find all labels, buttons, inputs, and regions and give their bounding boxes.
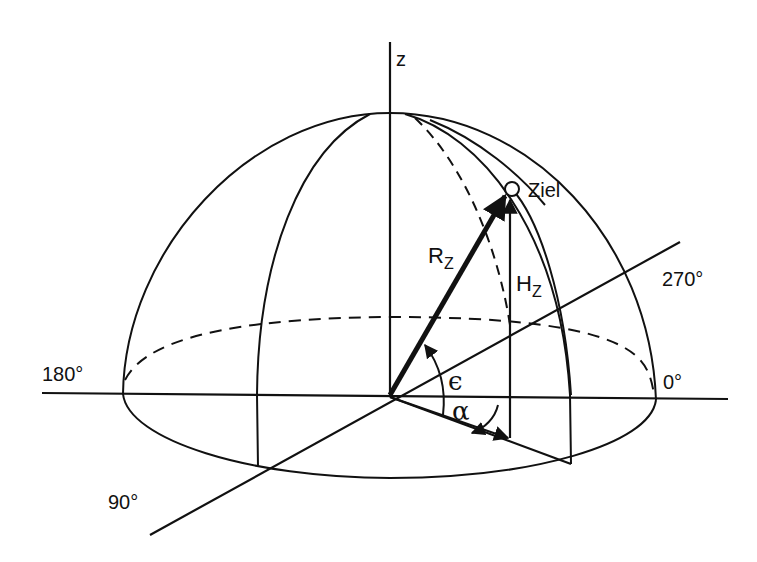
azimuth-vector bbox=[390, 397, 508, 438]
target-marker bbox=[505, 182, 519, 196]
hemisphere-diagram: z Ziel RZ HZ 270° 0° 180° 90° ϵ α bbox=[0, 0, 757, 562]
x-axis bbox=[42, 393, 728, 399]
meridian-left bbox=[257, 114, 370, 467]
equator-front bbox=[123, 394, 656, 478]
height-label: HZ bbox=[516, 271, 542, 300]
label-90-deg: 90° bbox=[108, 491, 138, 513]
z-axis-label: z bbox=[396, 48, 406, 70]
label-180-deg: 180° bbox=[42, 363, 83, 385]
target-label: Ziel bbox=[528, 179, 560, 201]
azimuth-angle-label: α bbox=[452, 396, 470, 426]
elevation-angle-label: ϵ bbox=[448, 366, 463, 396]
label-0-deg: 0° bbox=[663, 371, 682, 393]
label-270-deg: 270° bbox=[662, 268, 703, 290]
meridian-back-dashed bbox=[415, 118, 510, 325]
range-label: RZ bbox=[428, 243, 454, 272]
elevation-arc bbox=[425, 345, 444, 415]
axis-90-270 bbox=[150, 242, 680, 535]
